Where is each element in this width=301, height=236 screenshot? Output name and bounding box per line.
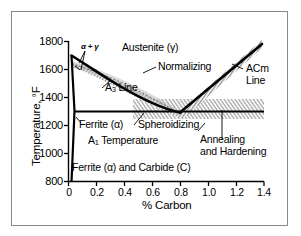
x-axis-title: % Carbon — [142, 199, 192, 211]
y-tick-1000: 1000 — [29, 148, 63, 160]
acm-line-label-text2: Line — [246, 74, 265, 86]
a1-label-prefix: A — [88, 134, 95, 146]
acm-line-label-text1: ACm — [246, 62, 269, 74]
a1-temperature-label: A1 Temperature — [88, 135, 158, 147]
normalizing-label: Normalizing — [158, 61, 211, 72]
x-tick-02: 0.2 — [85, 187, 109, 198]
x-tick-0: 0 — [57, 187, 81, 198]
annealing-label-text1: Annealing — [200, 133, 245, 145]
alpha-gamma-label: α + γ — [81, 43, 99, 51]
phase-diagram-figure: Temperature, °F 1800 1600 1400 1200 1000… — [0, 0, 301, 236]
ferrite-carbide-label: Ferrite (α) and Carbide (C) — [72, 162, 191, 173]
x-tick-14: 1.4 — [252, 187, 276, 198]
y-tick-1800: 1800 — [29, 36, 63, 48]
x-tick-06: 0.6 — [141, 187, 165, 198]
y-tick-1200: 1200 — [29, 120, 63, 132]
y-tick-800: 800 — [29, 176, 63, 188]
annealing-hardening-label: Annealing and Hardening — [200, 134, 266, 158]
x-tick-08: 0.8 — [169, 187, 193, 198]
acm-line-label: ACm Line — [246, 63, 269, 87]
x-tick-12: 1.2 — [225, 187, 249, 198]
spheroidizing-label: Spheroidizing — [138, 119, 199, 130]
austenite-label: Austenite (γ) — [122, 42, 178, 53]
y-tick-1600: 1600 — [29, 64, 63, 76]
ferrite-label: Ferrite (α) — [79, 119, 123, 130]
a3-line-label-suffix: Line — [116, 81, 138, 93]
x-tick-10: 1.0 — [197, 187, 221, 198]
y-tick-1400: 1400 — [29, 92, 63, 104]
a1-label-suffix: Temperature — [99, 134, 158, 146]
x-tick-04: 0.4 — [113, 187, 137, 198]
a3-line-label: A3 Line — [105, 82, 138, 94]
annealing-label-text2: and Hardening — [200, 145, 266, 157]
a3-line-label-prefix: A — [105, 81, 112, 93]
